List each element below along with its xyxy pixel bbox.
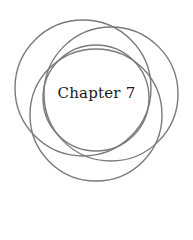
ring-4 — [30, 49, 162, 181]
chapter-title: Chapter 7 — [0, 84, 193, 102]
